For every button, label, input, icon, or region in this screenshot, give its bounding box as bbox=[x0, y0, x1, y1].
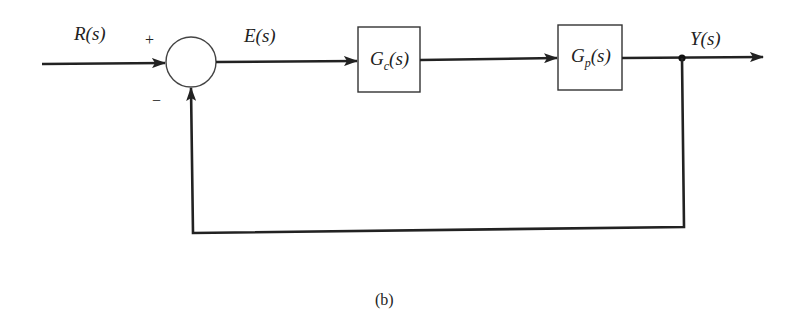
plant-block-label: Gp(s) bbox=[571, 46, 611, 65]
input-signal-label: R(s) bbox=[74, 24, 106, 43]
controller-to-plant-line bbox=[420, 58, 557, 60]
figure-caption: (b) bbox=[375, 292, 394, 308]
output-signal-line bbox=[622, 57, 763, 58]
output-signal-label: Y(s) bbox=[690, 29, 721, 48]
error-signal-label: E(s) bbox=[244, 26, 276, 45]
plant-block-subscript: p bbox=[585, 56, 591, 70]
plus-sign: + bbox=[145, 32, 154, 48]
controller-block-label: Gc(s) bbox=[370, 49, 409, 68]
controller-block-subscript: c bbox=[384, 59, 389, 73]
block-diagram: R(s) + − E(s) Gc(s) Gp(s) Y(s) (b) bbox=[0, 0, 794, 323]
input-signal-line bbox=[42, 63, 165, 64]
controller-block-arg: (s) bbox=[389, 48, 409, 69]
plant-block-base: G bbox=[571, 45, 585, 66]
plant-block-arg: (s) bbox=[591, 45, 611, 66]
minus-sign: − bbox=[152, 93, 161, 109]
controller-block-base: G bbox=[370, 48, 384, 69]
summing-junction bbox=[166, 37, 216, 87]
error-signal-line bbox=[216, 61, 357, 62]
